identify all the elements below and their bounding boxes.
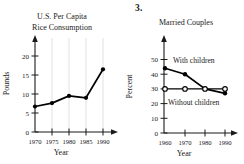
right-y-axis-arrow [161,35,167,42]
without-children-point-1980 [203,87,208,92]
without-children-label: Without children [168,98,220,107]
ytick-label-5: 5 [26,110,30,118]
left-x-axis-label-text: Year [54,148,69,157]
ytick-label-0: 0 [155,130,159,138]
problem-number: 3. [135,3,143,13]
left-plot-area: 0 5 10 15 20 1970 1975 1980 1985 [14,34,122,150]
left-y-axis: 0 5 10 15 20 [22,35,39,137]
xtick-label-1970: 1970 [178,139,192,146]
xtick-label-1990: 1990 [96,138,110,145]
right-y-axis-label: Percent [125,67,134,107]
figure-married-couples: 3. Married Couples Percent 0 10 20 [122,0,244,164]
figure-rice-consumption: U.S. Per Capita Rice Consumption Pounds [0,0,122,164]
data-point-1980 [67,94,71,98]
xtick-label-1970: 1970 [28,138,42,145]
ytick-label-20: 20 [151,100,159,108]
right-y-axis-label-text: Percent [125,75,134,99]
xtick-label-1975: 1975 [45,138,59,145]
right-chart-title: Married Couples [134,18,238,29]
right-x-axis: 1960 1970 1980 1990 [158,130,238,147]
right-x-axis-label-text: Year [177,149,192,158]
data-point-1975 [50,101,54,105]
left-x-axis-label: Year [15,148,107,157]
xtick-label-1990: 1990 [218,139,232,146]
without-children-point-1990 [223,87,228,92]
data-point-1970 [33,104,37,108]
ytick-label-15: 15 [22,72,30,80]
left-y-axis-arrow [32,35,38,42]
left-x-axis: 1970 1975 1980 1985 1990 [28,129,118,146]
with-children-point-1990 [223,91,227,95]
left-chart-title-line2: Rice Consumption [10,23,114,34]
with-children-point-1970 [183,72,187,76]
left-gridlines [52,38,103,132]
with-children-label: With children [173,56,215,65]
ytick-label-30: 30 [151,85,159,93]
without-children-point-1960 [163,87,168,92]
ytick-label-50: 50 [151,56,159,64]
right-x-axis-arrow [231,130,238,136]
series-with-children [163,66,227,95]
worksheet-page: U.S. Per Capita Rice Consumption Pounds [0,0,244,164]
ytick-label-10: 10 [151,115,159,123]
left-y-axis-label: Pounds [2,64,11,104]
with-children-line [165,68,225,93]
ytick-label-0: 0 [26,129,30,137]
left-y-axis-label-text: Pounds [2,72,11,96]
right-plot-area: 0 10 20 30 40 50 1960 1970 1980 1990 [136,32,244,150]
left-chart-title-line1: U.S. Per Capita [10,12,114,23]
left-chart-title: U.S. Per Capita Rice Consumption [10,12,114,33]
xtick-label-1985: 1985 [79,138,93,145]
right-chart-svg: 0 10 20 30 40 50 1960 1970 1980 1990 [136,32,244,150]
data-point-1985 [84,96,88,100]
left-x-axis-arrow [111,129,118,135]
right-x-axis-label: Year [138,149,230,158]
with-children-point-1960 [163,66,167,70]
data-point-1990 [101,67,105,71]
xtick-label-1980: 1980 [198,139,212,146]
ytick-label-40: 40 [151,71,159,79]
without-children-point-1970 [183,87,188,92]
xtick-label-1960: 1960 [158,139,172,146]
ytick-label-10: 10 [22,91,30,99]
series-without-children [163,87,228,92]
ytick-label-20: 20 [22,53,30,61]
left-chart-svg: 0 5 10 15 20 1970 1975 1980 1985 [14,34,122,150]
xtick-label-1980: 1980 [62,138,76,145]
